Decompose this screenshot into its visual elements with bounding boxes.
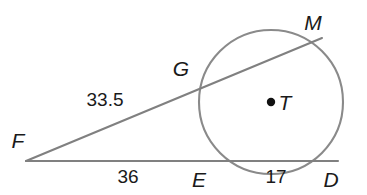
measure-label-fg: 33.5 (87, 89, 124, 110)
point-label-t: T (279, 91, 294, 114)
measure-label-ed: 17 (265, 166, 286, 187)
center-point-dot (267, 98, 275, 106)
point-label-d: D (323, 168, 338, 191)
geometry-canvas: F G M E D T 33.5 36 17 (0, 0, 367, 195)
measure-label-fe: 36 (117, 166, 138, 187)
point-label-e: E (192, 168, 207, 191)
point-label-f: F (12, 129, 26, 152)
geometry-figure: F G M E D T 33.5 36 17 (0, 0, 367, 195)
point-label-g: G (173, 57, 189, 80)
point-label-m: M (304, 11, 322, 34)
